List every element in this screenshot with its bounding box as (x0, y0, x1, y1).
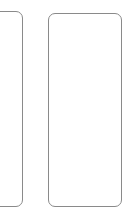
diagram-canvas (0, 0, 133, 217)
right-panel[interactable] (48, 13, 122, 207)
left-panel[interactable] (0, 11, 23, 207)
right-panel-content (49, 14, 121, 206)
left-panel-content (0, 12, 22, 206)
